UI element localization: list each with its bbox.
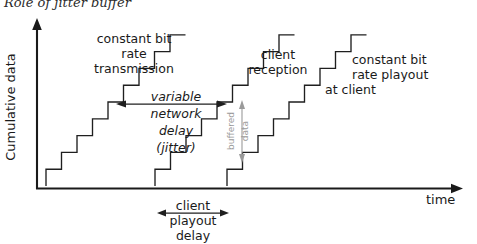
transmission-label-line2: rate: [121, 46, 147, 61]
transmission-label-line3: transmission: [94, 61, 174, 76]
transmission-label: constant bit rate transmission: [94, 31, 174, 76]
playout-label-line2: rate playout: [352, 67, 428, 82]
jitter-label-line4: (jitter): [156, 140, 195, 155]
playout-label-line1: constant bit: [352, 52, 427, 67]
x-axis-label: time: [426, 192, 455, 207]
jitter-buffer-diagram: Role of jitter buffer Cumulative data ti…: [0, 0, 477, 244]
playout-delay-label-line1: client: [176, 198, 210, 213]
diagram-canvas: Role of jitter buffer Cumulative data ti…: [0, 0, 477, 244]
slide-title: Role of jitter buffer: [3, 0, 132, 10]
reception-label-line1: client: [261, 47, 295, 62]
playout-delay-label-line3: delay: [176, 228, 211, 243]
playout-delay-label-line2: playout: [170, 213, 217, 228]
playout-delay-arrow-right: [220, 210, 229, 217]
buffered-measure-arrow-top: [239, 100, 245, 109]
buffered-label-line2: data: [240, 121, 250, 141]
reception-label: client reception: [249, 47, 308, 77]
buffered-measure-arrow-bottom: [239, 154, 245, 163]
y-axis-label: Cumulative data: [3, 53, 18, 161]
playout-staircase: [227, 35, 367, 186]
playout-delay-label: client playout delay: [170, 198, 217, 243]
buffered-data-label: buffered data: [226, 112, 250, 150]
playout-label: constant bit rate playout at client: [325, 52, 428, 97]
jitter-label-line2: network: [151, 106, 203, 121]
y-axis-arrowhead: [32, 18, 42, 30]
buffered-label-line1: buffered: [226, 112, 236, 150]
jitter-label-line3: delay: [159, 123, 194, 138]
playout-label-line3: at client: [325, 82, 376, 97]
transmission-label-line1: constant bit: [97, 31, 172, 46]
jitter-label-line1: variable: [151, 89, 202, 104]
jitter-delay-label: variable network delay (jitter): [151, 89, 203, 155]
playout-delay-arrow-left: [157, 210, 166, 217]
reception-label-line2: reception: [249, 62, 308, 77]
